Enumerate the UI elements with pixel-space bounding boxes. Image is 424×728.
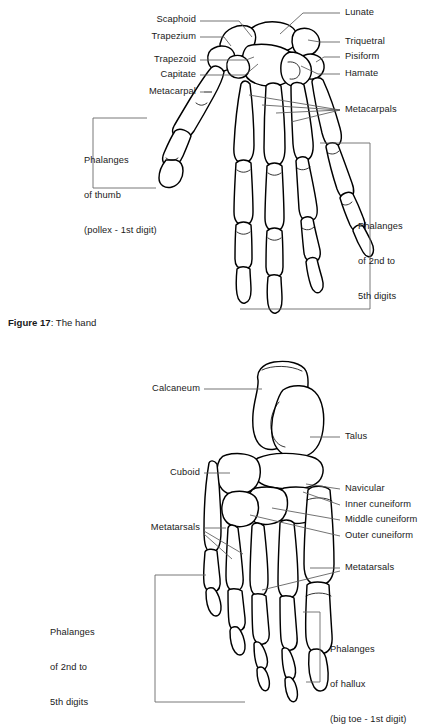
phalanges-thumb-line-2: of thumb — [84, 190, 157, 202]
foot-figure: Calcaneum Cuboid Metatarsals Talus Navic… — [0, 340, 424, 715]
figure-caption-hand-number: Figure 17 — [8, 317, 51, 328]
middle-metacarpal-bone — [264, 83, 285, 166]
label-inner-cuneiform: Inner cuneiform — [345, 499, 411, 511]
phalanges-thumb-line-1: Phalanges — [84, 155, 157, 167]
ring-middle-phalanx-bone — [301, 217, 320, 262]
label-outer-cuneiform: Outer cuneiform — [345, 530, 413, 542]
label-phalanges-of-thumb: Phalanges of thumb (pollex - 1st digit) — [84, 132, 157, 260]
label-talus: Talus — [345, 431, 367, 443]
label-phalanges-digits: Phalanges of 2nd to 5th digits — [358, 198, 403, 326]
label-trapezoid: Trapezoid — [56, 54, 196, 66]
third-distal-phalanx-bone — [257, 667, 269, 691]
fifth-metatarsal-bone — [204, 461, 221, 552]
middle-middle-phalanx-bone — [266, 228, 283, 277]
index-metacarpal-bone — [234, 81, 254, 163]
label-metacarpal: Metacarpal — [56, 86, 196, 98]
hallux-distal-phalanx-bone — [309, 649, 328, 691]
fourth-distal-phalanx-bone — [230, 627, 245, 655]
ring-metacarpal-bone — [291, 82, 313, 161]
label-navicular: Navicular — [345, 483, 385, 495]
label-pisiform: Pisiform — [345, 51, 379, 63]
second-metatarsal-bone — [278, 520, 298, 598]
outer-cuneiform-bone — [222, 491, 259, 526]
label-cuboid: Cuboid — [60, 467, 200, 479]
label-middle-cuneiform: Middle cuneiform — [345, 514, 417, 526]
figure-caption-hand: Figure 17: The hand — [8, 317, 96, 328]
label-metatarsals-left: Metatarsals — [60, 522, 200, 534]
ring-distal-phalanx-bone — [306, 258, 323, 293]
index-distal-phalanx-bone — [236, 267, 251, 303]
ring-proximal-phalanx-bone — [296, 157, 317, 221]
label-hamate: Hamate — [345, 68, 378, 80]
phalanges-foot-digits-line-3: 5th digits — [50, 697, 95, 709]
phalanges-foot-digits-line-2: of 2nd to — [50, 662, 95, 674]
third-metatarsal-bone — [250, 523, 268, 596]
phalanges-hallux-line-2: of hallux — [330, 679, 407, 691]
label-triquetral: Triquetral — [345, 36, 385, 48]
phalanges-digits-line-1: Phalanges — [358, 221, 403, 233]
second-distal-phalanx-bone — [285, 677, 297, 702]
second-proximal-phalanx-bone — [280, 596, 297, 650]
label-scaphoid: Scaphoid — [56, 14, 196, 26]
little-proximal-phalanx-bone — [326, 143, 354, 199]
label-trapezium: Trapezium — [56, 31, 196, 43]
label-metacarpals: Metacarpals — [345, 104, 397, 116]
second-middle-phalanx-bone — [282, 648, 295, 681]
index-middle-phalanx-bone — [235, 222, 252, 269]
fourth-proximal-phalanx-bone — [228, 589, 245, 631]
thumb-distal-phalanx-bone — [159, 160, 183, 188]
figure-caption-hand-title: : The hand — [51, 317, 97, 328]
label-lunate: Lunate — [345, 7, 374, 19]
phalanges-foot-digits-line-1: Phalanges — [50, 627, 95, 639]
third-proximal-phalanx-bone — [252, 594, 269, 644]
navicular-bone — [253, 453, 323, 489]
label-capitate: Capitate — [56, 69, 196, 81]
phalanges-digits-line-2: of 2nd to — [358, 256, 403, 268]
label-calcaneum: Calcaneum — [60, 383, 200, 395]
label-phalanges-foot-digits: Phalanges of 2nd to 5th digits — [50, 604, 95, 728]
talus-bone — [272, 386, 324, 458]
little-metacarpal-bone — [312, 78, 341, 148]
fourth-metatarsal-bone — [226, 525, 243, 591]
phalanges-hallux-line-3: (big toe - 1st digit) — [330, 714, 407, 726]
hand-figure: Scaphoid Trapezium Trapezoid Capitate Me… — [0, 0, 424, 340]
phalanges-hallux-line-1: Phalanges — [330, 644, 407, 656]
fifth-distal-phalanx-bone — [206, 588, 221, 616]
middle-distal-phalanx-bone — [267, 275, 282, 313]
phalanges-thumb-line-3: (pollex - 1st digit) — [84, 225, 157, 237]
triquetral-bone — [292, 28, 320, 56]
phalanges-digits-line-3: 5th digits — [358, 291, 403, 303]
label-phalanges-of-hallux: Phalanges of hallux (big toe - 1st digit… — [330, 621, 407, 728]
label-metatarsals-right: Metatarsals — [345, 562, 394, 574]
fifth-proximal-phalanx-bone — [204, 549, 221, 592]
